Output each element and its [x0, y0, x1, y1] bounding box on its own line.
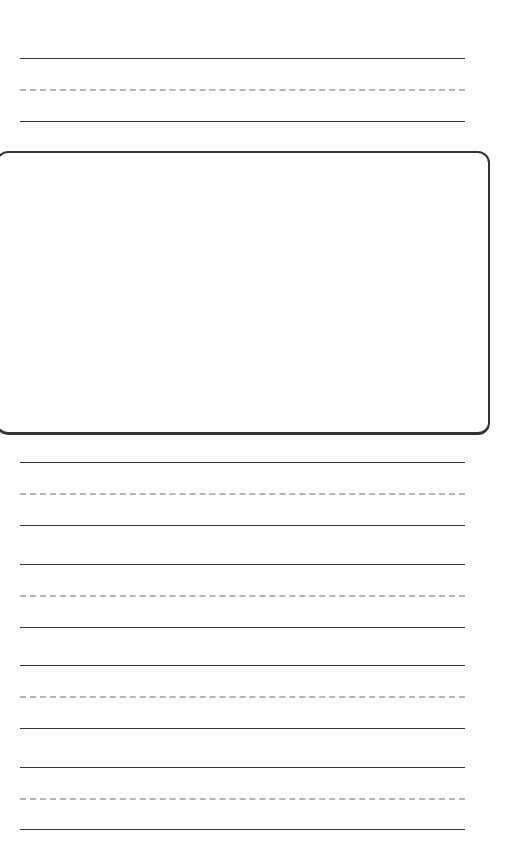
writing-line-base — [20, 627, 465, 628]
writing-line-top — [20, 564, 465, 565]
writing-line-top — [20, 665, 465, 666]
writing-line-base — [20, 829, 465, 830]
writing-line-top — [20, 462, 465, 463]
drawing-box — [0, 151, 490, 435]
writing-line-mid — [20, 696, 465, 698]
writing-line-base — [20, 728, 465, 729]
writing-line-top — [20, 767, 465, 768]
writing-line-base — [20, 525, 465, 526]
writing-line-base — [20, 121, 465, 122]
writing-line-mid — [20, 89, 465, 91]
writing-line-mid — [20, 798, 465, 800]
writing-line-mid — [20, 595, 465, 597]
writing-line-top — [20, 58, 465, 59]
writing-line-mid — [20, 493, 465, 495]
